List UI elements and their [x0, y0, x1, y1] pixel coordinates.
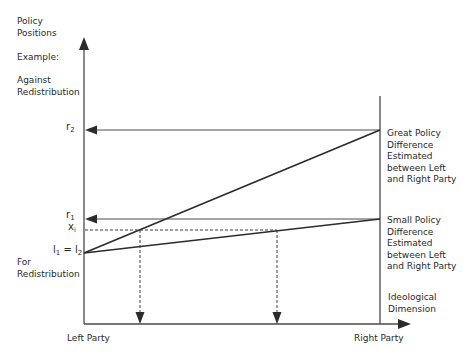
great-line-1: Great Policy	[387, 128, 456, 140]
y-axis-title: Policy Positions	[17, 16, 57, 39]
r2-arrowhead-icon	[85, 126, 97, 135]
example-label: Example:	[17, 52, 59, 64]
small-line-1: Small Policy	[387, 215, 456, 227]
small-line-5: and Right Party	[387, 261, 456, 273]
against-redistribution-label: Against Redistribution	[17, 75, 80, 98]
dimension-line-2: Dimension	[388, 304, 437, 316]
right-drop-arrowhead-icon	[273, 312, 282, 324]
great-difference-annotation: Great Policy Difference Estimated betwee…	[387, 128, 456, 186]
great-line-5: and Right Party	[387, 174, 456, 186]
tick-xi: xi	[68, 221, 76, 236]
small-line-3: Estimated	[387, 238, 456, 250]
small-line-2: Difference	[387, 227, 456, 239]
y-axis-arrowhead-icon	[79, 37, 89, 50]
dimension-line-1: Ideological	[388, 292, 437, 304]
r1-arrowhead-icon	[85, 215, 97, 224]
right-party-label: Right Party	[354, 333, 404, 345]
for-label-line2: Redistribution	[17, 269, 80, 281]
tick-equals: =	[60, 244, 75, 255]
y-axis-title-line2: Positions	[17, 28, 57, 40]
great-line-2: Difference	[387, 140, 456, 152]
tick-l2-sub: 2	[78, 249, 82, 257]
small-difference-annotation: Small Policy Difference Estimated betwee…	[387, 215, 456, 273]
small-difference-line	[84, 219, 380, 253]
against-label-line2: Redistribution	[17, 87, 80, 99]
ideological-dimension-label: Ideological Dimension	[388, 292, 437, 315]
great-difference-line	[84, 130, 380, 253]
y-axis-title-line1: Policy	[17, 16, 57, 28]
tick-xi-sub: i	[74, 226, 76, 234]
x-axis-arrowhead-icon	[398, 319, 411, 329]
tick-l1-eq-l2: l1 = l2	[53, 244, 82, 259]
great-line-4: between Left	[387, 163, 456, 175]
tick-r2-sub: 2	[70, 126, 74, 134]
left-drop-arrowhead-icon	[136, 312, 145, 324]
small-line-4: between Left	[387, 250, 456, 262]
for-redistribution-label: For Redistribution	[17, 257, 80, 280]
against-label-line1: Against	[17, 75, 80, 87]
left-party-label: Left Party	[67, 333, 110, 345]
tick-r2: r2	[66, 121, 75, 136]
great-line-3: Estimated	[387, 151, 456, 163]
